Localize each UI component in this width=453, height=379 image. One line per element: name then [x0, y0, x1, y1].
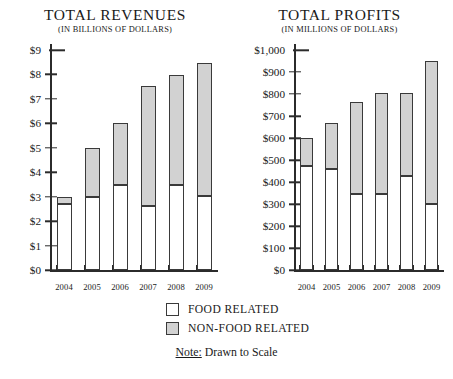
bar-segment-nonfood-2008 — [169, 75, 184, 185]
chart-note-text: Drawn to Scale — [205, 345, 278, 359]
y-axis-tick — [45, 147, 57, 148]
y-axis-label: $900 — [263, 66, 285, 78]
chart-note: Note: Drawn to Scale — [0, 345, 453, 360]
y-axis-label: $7 — [30, 93, 41, 105]
legend-swatch-food-icon — [166, 303, 179, 316]
bar-segment-food-2009 — [425, 204, 438, 270]
bar-segment-nonfood-2009 — [425, 61, 438, 204]
y-axis-label: $1,000 — [254, 44, 285, 56]
bar-segment-nonfood-2008 — [400, 93, 413, 176]
bar-segment-nonfood-2004 — [57, 197, 72, 204]
y-axis-label: $8 — [30, 68, 41, 80]
x-axis-label-2006: 2006 — [348, 282, 366, 292]
y-axis-label: $800 — [263, 88, 285, 100]
bar-segment-food-2006 — [113, 185, 128, 271]
plot-area-total-revenues: $0$1$2$3$4$5$6$7$8$920042005200620072008… — [50, 50, 218, 272]
bar-segment-food-2006 — [350, 194, 363, 270]
x-axis-label-2009: 2009 — [423, 282, 441, 292]
bar-segment-nonfood-2005 — [325, 123, 338, 169]
x-axis-label-2007: 2007 — [373, 282, 391, 292]
bar-2004 — [57, 197, 72, 270]
x-axis-label-2005: 2005 — [323, 282, 341, 292]
y-axis-label: $700 — [263, 110, 285, 122]
y-axis-label: $100 — [263, 242, 285, 254]
y-axis-label: $0 — [30, 264, 41, 276]
y-axis-tick — [49, 49, 65, 51]
bar-segment-food-2007 — [141, 206, 156, 271]
chart-title-total-revenues: TOTAL REVENUES — [4, 6, 226, 24]
y-axis-label: $400 — [263, 176, 285, 188]
bar-2005 — [85, 148, 100, 270]
y-axis-label: $4 — [30, 166, 41, 178]
bar-segment-food-2008 — [400, 176, 413, 271]
y-axis-label: $0 — [274, 264, 285, 276]
bar-segment-nonfood-2007 — [141, 86, 156, 206]
y-axis-tick — [289, 71, 301, 72]
x-axis-label-2006: 2006 — [111, 282, 129, 292]
bar-segment-nonfood-2009 — [197, 63, 212, 195]
stacked-bar-chart-figure: TOTAL REVENUES (IN BILLIONS OF DOLLARS) … — [0, 0, 453, 379]
chart-legend: FOOD RELATED NON-FOOD RELATED Note: Draw… — [0, 300, 453, 360]
y-axis-line — [294, 44, 296, 272]
y-axis-label: $2 — [30, 215, 41, 227]
x-axis-label-2007: 2007 — [139, 282, 157, 292]
y-axis-label: $500 — [263, 154, 285, 166]
y-axis-tick — [45, 221, 57, 222]
legend-item-non-food-related: NON-FOOD RELATED — [0, 319, 453, 338]
y-axis-label: $5 — [30, 142, 41, 154]
y-axis-label: $1 — [30, 240, 41, 252]
y-axis-tick — [289, 93, 301, 94]
y-axis-tick — [293, 49, 309, 51]
x-axis-label-2008: 2008 — [167, 282, 185, 292]
bar-2009 — [425, 61, 438, 270]
bar-2006 — [113, 123, 128, 270]
x-axis-label-2005: 2005 — [83, 282, 101, 292]
bar-segment-food-2007 — [375, 194, 388, 270]
chart-panel-total-revenues: TOTAL REVENUES (IN BILLIONS OF DOLLARS) … — [4, 0, 226, 296]
legend-item-food-related: FOOD RELATED — [0, 300, 453, 319]
x-axis-label-2009: 2009 — [195, 282, 213, 292]
x-axis-label-2004: 2004 — [298, 282, 316, 292]
bar-segment-nonfood-2005 — [85, 148, 100, 197]
x-axis-label-2004: 2004 — [55, 282, 73, 292]
y-axis-label: $600 — [263, 132, 285, 144]
bar-segment-food-2004 — [300, 166, 313, 271]
x-axis-line — [294, 270, 444, 272]
chart-subtitle-total-profits: (IN MILLIONS OF DOLLARS) — [226, 25, 453, 34]
y-axis-label: $200 — [263, 220, 285, 232]
bar-2007 — [141, 86, 156, 271]
bar-2004 — [300, 138, 313, 270]
y-axis-tick — [289, 115, 301, 116]
y-axis-line — [50, 44, 52, 272]
legend-label-food-related: FOOD RELATED — [188, 303, 279, 316]
bar-segment-food-2008 — [169, 185, 184, 271]
chart-subtitle-total-revenues: (IN BILLIONS OF DOLLARS) — [4, 25, 226, 34]
y-axis-label: $3 — [30, 191, 41, 203]
bar-2009 — [197, 63, 212, 270]
bar-segment-food-2005 — [325, 169, 338, 270]
bar-2008 — [169, 75, 184, 271]
bar-2006 — [350, 102, 363, 271]
bar-segment-nonfood-2004 — [300, 138, 313, 166]
bar-segment-food-2004 — [57, 204, 72, 270]
legend-swatch-nonfood-icon — [166, 322, 179, 335]
y-axis-label: $6 — [30, 117, 41, 129]
y-axis-tick — [45, 74, 57, 75]
x-axis-label-2008: 2008 — [398, 282, 416, 292]
bar-segment-food-2009 — [197, 196, 212, 271]
legend-label-non-food-related: NON-FOOD RELATED — [188, 322, 309, 335]
y-axis-tick — [45, 245, 57, 246]
chart-note-key: Note: — [176, 345, 202, 359]
bar-segment-nonfood-2006 — [350, 102, 363, 195]
bar-segment-nonfood-2006 — [113, 123, 128, 184]
bar-segment-food-2005 — [85, 197, 100, 270]
y-axis-tick — [45, 196, 57, 197]
y-axis-label: $300 — [263, 198, 285, 210]
y-axis-tick — [45, 98, 57, 99]
bar-2005 — [325, 123, 338, 271]
x-axis-line — [50, 270, 218, 272]
chart-panel-total-profits: TOTAL PROFITS (IN MILLIONS OF DOLLARS) $… — [226, 0, 453, 296]
y-axis-tick — [45, 123, 57, 124]
bar-2008 — [400, 93, 413, 270]
chart-title-total-profits: TOTAL PROFITS — [226, 6, 453, 24]
